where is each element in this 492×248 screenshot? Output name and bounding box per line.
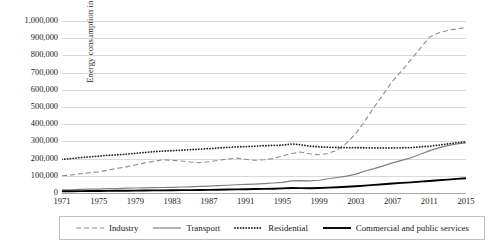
x-axis-tick-label: 2011	[421, 196, 438, 206]
y-axis-tick-label: 100,000	[4, 172, 58, 180]
x-axis-tick-label: 1975	[90, 196, 107, 206]
legend-item[interactable]: Industry	[68, 223, 145, 233]
series-line	[62, 178, 466, 191]
legend-line-icon	[322, 224, 352, 232]
series-line	[62, 28, 466, 176]
y-axis-title-wrapper: Energy consumption in ktoe	[62, 0, 63, 1]
x-axis-tick-label: 2015	[457, 196, 474, 206]
legend-line-icon	[234, 224, 264, 232]
legend-item-label: Residential	[268, 223, 308, 233]
plot-area	[62, 21, 466, 193]
series-line	[62, 142, 466, 160]
x-axis-line	[62, 193, 466, 194]
y-axis-tick-label: 900,000	[4, 34, 58, 42]
x-axis-tick-label: 1991	[237, 196, 254, 206]
legend-item[interactable]: Transport	[145, 223, 227, 233]
y-axis-tick-label: 1,000,000	[4, 17, 58, 25]
legend-line-icon	[75, 224, 105, 232]
y-axis-tick-label: 400,000	[4, 120, 58, 128]
y-axis-tick-label: 800,000	[4, 51, 58, 59]
legend-line-icon	[152, 224, 182, 232]
y-axis-tick-label: 600,000	[4, 86, 58, 94]
y-axis-tick-label: 0	[4, 189, 58, 197]
y-axis-tick-label: 300,000	[4, 137, 58, 145]
x-axis-tick-label: 1999	[310, 196, 327, 206]
legend-item[interactable]: Residential	[227, 223, 315, 233]
y-axis-tick-label: 200,000	[4, 155, 58, 163]
legend-item-label: Transport	[186, 223, 220, 233]
y-axis-tick-label: 700,000	[4, 69, 58, 77]
legend-item-label: Industry	[109, 223, 138, 233]
legend-item-label: Commercial and public services	[356, 223, 469, 233]
x-axis-tick-label: 2003	[347, 196, 364, 206]
chart-container: Energy consumption in ktoe 0100,000200,0…	[0, 0, 492, 248]
x-axis-tick-label: 1987	[200, 196, 217, 206]
x-axis-tick-label: 1995	[274, 196, 291, 206]
chart-legend: IndustryTransportResidentialCommercial a…	[59, 216, 485, 240]
series-lines	[62, 21, 466, 193]
x-axis-tick-label: 1983	[164, 196, 181, 206]
y-axis-tick-labels: 0100,000200,000300,000400,000500,000600,…	[0, 0, 58, 248]
x-axis-tick-label: 1971	[53, 196, 70, 206]
y-axis-tick-label: 500,000	[4, 103, 58, 111]
x-axis-tick-label: 1979	[127, 196, 144, 206]
x-axis-tick-label: 2007	[384, 196, 401, 206]
legend-item[interactable]: Commercial and public services	[315, 223, 476, 233]
